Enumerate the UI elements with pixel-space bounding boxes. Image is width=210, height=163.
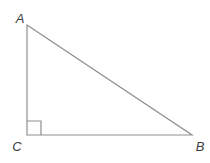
vertex-label-a: A [15, 11, 25, 26]
vertex-label-c: C [12, 139, 22, 154]
triangle-outline [27, 25, 192, 135]
right-angle-marker [27, 121, 41, 135]
triangle-figure: A B C [0, 0, 210, 163]
vertex-label-b: B [196, 139, 205, 154]
triangle-diagram: A B C [0, 0, 210, 163]
